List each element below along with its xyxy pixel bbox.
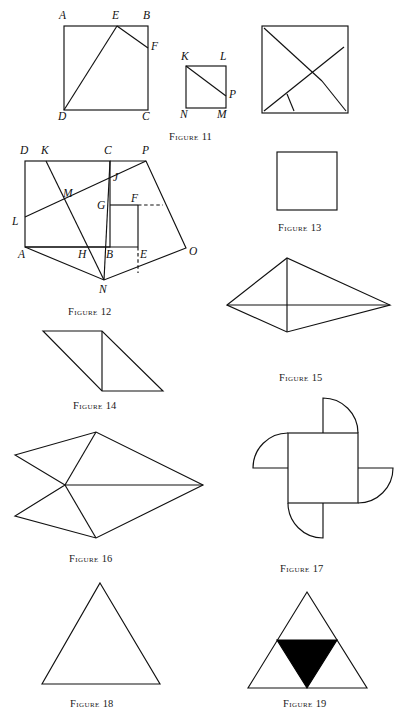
caption-figure-16: Figure 16 xyxy=(69,553,112,564)
figure13-square xyxy=(277,152,337,210)
figure12-segment-l-p xyxy=(25,161,146,217)
caption-number: 16 xyxy=(102,553,113,564)
caption-number: 17 xyxy=(313,563,324,574)
figure19-inner-filled-triangle xyxy=(277,640,337,688)
figure16-dart-outline xyxy=(15,432,203,538)
label-point-m: M xyxy=(217,109,227,121)
figure-16 xyxy=(15,432,203,538)
label-fig12-o: O xyxy=(189,246,197,258)
figure-12 xyxy=(25,161,186,280)
figure19-triangle xyxy=(248,592,367,688)
figures-canvas xyxy=(0,0,408,715)
label-point-b: B xyxy=(143,10,150,22)
figure17-lobe-left xyxy=(253,433,288,468)
label-point-c: C xyxy=(142,111,150,123)
caption-figure-12: Figure 12 xyxy=(68,306,111,317)
figure15-kite xyxy=(227,258,390,332)
caption-number: 13 xyxy=(311,222,322,233)
segment-e-f xyxy=(117,26,148,48)
label-fig12-n: N xyxy=(99,284,107,296)
dissection-cut-main-diagonal xyxy=(264,47,344,111)
square-abcd-outline xyxy=(64,26,148,110)
label-point-d: D xyxy=(58,111,66,123)
caption-word: Figure xyxy=(70,698,100,709)
figure16-ray-upper xyxy=(65,432,96,485)
dissection-cut-short-lower xyxy=(287,94,294,111)
label-fig12-c: C xyxy=(104,145,112,157)
label-fig12-p: P xyxy=(142,145,149,157)
figure-11-dissected-square xyxy=(262,26,348,113)
figure12-segment-k-n xyxy=(46,161,104,280)
label-point-k: K xyxy=(181,51,189,63)
figure-14 xyxy=(43,331,163,391)
label-fig12-d: D xyxy=(20,145,28,157)
caption-number: 12 xyxy=(101,306,112,317)
label-fig12-h: H xyxy=(78,249,86,261)
dissection-cut-upper-left xyxy=(264,28,322,81)
caption-figure-15: Figure 15 xyxy=(279,372,322,383)
caption-figure-14: Figure 14 xyxy=(73,400,116,411)
caption-word: Figure xyxy=(279,372,309,383)
figure16-ray-lower xyxy=(65,485,96,538)
caption-word: Figure xyxy=(68,306,98,317)
label-fig12-m: M xyxy=(63,188,73,200)
label-point-p: P xyxy=(229,89,236,101)
caption-word: Figure xyxy=(169,131,199,142)
figure17-lobe-top xyxy=(323,398,358,433)
label-fig12-l: L xyxy=(12,216,18,228)
caption-word: Figure xyxy=(69,553,99,564)
label-point-n: N xyxy=(180,109,188,121)
caption-number: 14 xyxy=(106,400,117,411)
caption-figure-18: Figure 18 xyxy=(70,698,113,709)
label-fig12-k: K xyxy=(41,145,49,157)
label-fig12-e: E xyxy=(140,249,147,261)
caption-figure-19: Figure 19 xyxy=(283,698,326,709)
caption-word: Figure xyxy=(283,698,313,709)
figure-18 xyxy=(42,583,160,684)
figure-11-square-abcd xyxy=(64,26,148,110)
caption-figure-13: Figure 13 xyxy=(278,222,321,233)
label-point-f: F xyxy=(151,41,158,53)
label-point-a: A xyxy=(59,10,66,22)
figure-11-square-klmn xyxy=(186,66,226,108)
dissected-square-outline xyxy=(262,26,348,113)
caption-word: Figure xyxy=(73,400,103,411)
figure-19 xyxy=(248,592,367,688)
segment-d-e xyxy=(64,26,117,110)
label-point-l: L xyxy=(220,51,226,63)
figure17-center-square xyxy=(288,433,358,503)
label-fig12-g: G xyxy=(97,200,105,212)
figure-17 xyxy=(253,398,393,538)
figure-13 xyxy=(277,152,337,210)
caption-number: 19 xyxy=(316,698,327,709)
square-klmn-outline xyxy=(186,66,226,108)
caption-word: Figure xyxy=(278,222,308,233)
caption-number: 15 xyxy=(312,372,323,383)
label-fig12-a: A xyxy=(18,249,25,261)
figure17-lobe-bottom xyxy=(288,503,323,538)
segment-k-p xyxy=(186,66,226,96)
label-point-e: E xyxy=(112,10,119,22)
label-fig12-b: B xyxy=(106,249,113,261)
figure12-outer-quad-anop xyxy=(25,161,186,280)
label-fig12-f: F xyxy=(131,193,138,205)
figure-15 xyxy=(227,258,390,332)
caption-word: Figure xyxy=(280,563,310,574)
label-fig12-j: J xyxy=(113,172,118,184)
figure-plate-page: A E B F D C K L P N M D K C P J M G F L … xyxy=(0,0,408,715)
dissection-cut-lower-right xyxy=(322,81,346,111)
caption-number: 18 xyxy=(103,698,114,709)
figure14-parallelogram xyxy=(43,331,163,391)
figure18-triangle xyxy=(42,583,160,684)
caption-figure-17: Figure 17 xyxy=(280,563,323,574)
figure17-lobe-right xyxy=(358,468,393,503)
caption-figure-11: Figure 11 xyxy=(169,131,212,142)
figure12-segment-c-n xyxy=(104,161,110,280)
caption-number: 11 xyxy=(202,131,212,142)
